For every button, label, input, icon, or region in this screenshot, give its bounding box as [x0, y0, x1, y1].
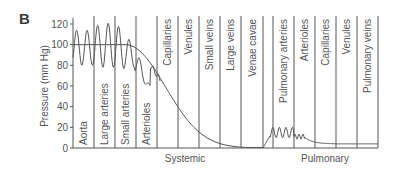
y-tick-label: 100 [51, 39, 68, 50]
pressure-chart: 020406080100120Pressure (mm Hg)AortaLarg… [0, 0, 398, 172]
y-tick-label: 0 [62, 143, 68, 154]
segment-label: Small veins [204, 19, 215, 70]
y-axis-label: Pressure (mm Hg) [39, 45, 50, 127]
y-tick-label: 80 [57, 60, 69, 71]
segment-label: Capillaries [320, 19, 331, 66]
segment-label: Venules [183, 19, 194, 55]
segment-label: Large veins [225, 19, 236, 71]
y-tick-label: 20 [57, 122, 69, 133]
segment-label: Venae cavae [247, 19, 258, 77]
segment-label: Large arteries [99, 83, 110, 145]
pulmonary-pressure-curve [263, 127, 378, 148]
segment-label: Pulmonary veins [362, 19, 373, 93]
segment-label: Aorta [78, 121, 89, 145]
segment-label: Venules [341, 19, 352, 55]
segment-label: Arterioles [141, 103, 152, 145]
group-label-systemic: Systemic [165, 153, 206, 164]
y-tick-label: 120 [51, 19, 68, 30]
segment-label: Arterioles [299, 19, 310, 61]
y-tick-label: 40 [57, 101, 69, 112]
pulsatile-pressure-curve [73, 23, 160, 85]
group-label-pulmonary: Pulmonary [301, 153, 349, 164]
y-tick-label: 60 [57, 81, 69, 92]
segment-label: Pulmonary arteries [278, 19, 289, 103]
segment-label: Small arteries [120, 84, 131, 145]
segment-label: Capillaries [162, 19, 173, 66]
